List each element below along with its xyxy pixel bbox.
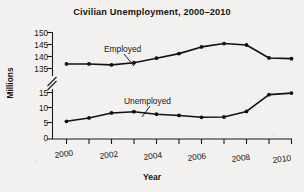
data-point-marker [245,110,249,114]
y-axis-title: Millions [5,55,15,111]
y-tick-label-135: 135 [22,65,48,74]
y-tick-label-150: 150 [22,29,48,38]
data-point-marker [200,45,204,49]
axis-break-marker [48,76,57,90]
y-tick-label-140: 140 [22,53,48,62]
data-point-marker [110,63,114,67]
y-tick-label-0: 0 [22,134,48,143]
chart-figure: Civilian Unemployment, 2000–2010 Million… [0,0,304,192]
x-axis-title: Year [0,172,304,182]
y-tick-label-145: 145 [22,41,48,50]
data-point-marker [132,61,136,65]
data-point-marker [290,57,294,61]
data-point-marker [245,43,249,47]
y-tick-label-15: 15 [22,89,48,98]
data-point-marker [110,111,114,115]
data-point-marker [177,52,181,56]
data-point-marker [87,116,91,120]
x-axis-ticks [67,139,292,144]
data-point-marker [267,56,271,60]
data-point-marker [132,110,136,114]
data-point-marker [222,42,226,46]
y-tick-label-10: 10 [22,104,48,113]
data-point-marker [267,93,271,97]
data-point-marker [65,119,69,123]
data-point-marker [87,62,91,66]
series-label-employed: Employed [104,44,141,54]
y-tick-label-5: 5 [22,119,48,128]
axes [53,32,293,139]
data-point-marker [222,115,226,119]
data-point-marker [155,56,159,60]
data-point-marker [290,91,294,95]
data-point-marker [65,62,69,66]
data-point-marker [177,114,181,118]
series-unemployed [65,91,294,123]
data-point-marker [200,115,204,119]
data-point-marker [155,112,159,116]
series-label-unemployed: Unemployed [124,96,171,106]
series-employed [65,42,294,67]
chart-title: Civilian Unemployment, 2000–2010 [0,7,304,17]
